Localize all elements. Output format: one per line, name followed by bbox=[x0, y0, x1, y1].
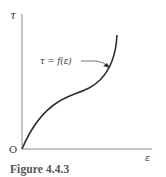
curve-tau-f-epsilon bbox=[22, 35, 117, 149]
curve-label: τ = f(ε) bbox=[40, 56, 72, 66]
x-axis-label: ε bbox=[145, 153, 150, 163]
figure-diagram: τ O ε τ = f(ε) bbox=[0, 0, 166, 177]
leader-line bbox=[81, 61, 108, 66]
y-axis-label: τ bbox=[10, 9, 17, 22]
arrow-head-icon bbox=[103, 63, 110, 68]
origin-label: O bbox=[9, 144, 17, 155]
figure-caption: Figure 4.4.3 bbox=[10, 163, 69, 175]
